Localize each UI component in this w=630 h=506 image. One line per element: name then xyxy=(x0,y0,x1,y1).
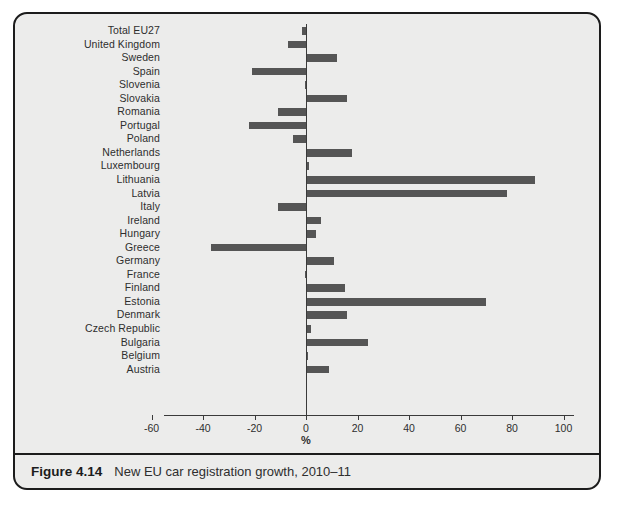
bar-chart-plot: Total EU27United KingdomSwedenSpainSlove… xyxy=(15,24,601,414)
bar xyxy=(249,122,306,130)
bar-row-label: Latvia xyxy=(131,187,160,201)
x-axis-title: % xyxy=(301,434,311,446)
bar-row: Latvia xyxy=(15,187,601,201)
x-axis-tick-label: 0 xyxy=(303,422,309,434)
bar-row: Total EU27 xyxy=(15,24,601,38)
bar xyxy=(211,244,306,252)
bar-row: Ireland xyxy=(15,214,601,228)
figure-card: Total EU27United KingdomSwedenSpainSlove… xyxy=(13,12,601,490)
bar-row-label: Italy xyxy=(140,200,160,214)
bar-row: Sweden xyxy=(15,51,601,65)
bar-row-label: United Kingdom xyxy=(84,38,160,52)
zero-axis-line xyxy=(306,24,307,416)
bar xyxy=(288,41,306,49)
x-axis-tick xyxy=(512,415,513,420)
bar-row: Portugal xyxy=(15,119,601,133)
x-axis-tick-label: -20 xyxy=(247,422,262,434)
bar-row: Netherlands xyxy=(15,146,601,160)
bar-row-label: Czech Republic xyxy=(85,322,160,336)
chart-area: Total EU27United KingdomSwedenSpainSlove… xyxy=(15,14,601,446)
bar-row: Lithuania xyxy=(15,173,601,187)
bar-row-label: Ireland xyxy=(127,214,160,228)
x-axis-tick-label: -60 xyxy=(144,422,159,434)
bar xyxy=(306,176,535,184)
bar-row-label: Lithuania xyxy=(116,173,160,187)
bar-row-label: Germany xyxy=(116,254,160,268)
bar-row: Belgium xyxy=(15,349,601,363)
x-axis-tick xyxy=(461,415,462,420)
bar-row-label: Portugal xyxy=(120,119,160,133)
x-axis-tick xyxy=(203,415,204,420)
bar-row-label: Sweden xyxy=(121,51,160,65)
bar-row-label: Slovakia xyxy=(120,92,161,106)
caption-figure-number: Figure 4.14 xyxy=(31,464,102,479)
bar-row: France xyxy=(15,268,601,282)
bar-row: Italy xyxy=(15,200,601,214)
bar-row: Luxembourg xyxy=(15,159,601,173)
bar-row-label: Luxembourg xyxy=(101,159,160,173)
bar-row-label: Belgium xyxy=(121,349,160,363)
bar xyxy=(306,257,334,265)
bar-row-label: Total EU27 xyxy=(108,24,160,38)
bar-row-label: Greece xyxy=(125,241,160,255)
bar-row-label: Romania xyxy=(117,105,160,119)
x-axis-tick xyxy=(564,415,565,420)
bar xyxy=(306,95,347,103)
bar-row-label: Poland xyxy=(127,132,160,146)
bar-row: Poland xyxy=(15,132,601,146)
bar-row: Estonia xyxy=(15,295,601,309)
bar-row-label: Finland xyxy=(125,281,160,295)
x-axis-tick xyxy=(255,415,256,420)
bar xyxy=(278,203,306,211)
bar-row-label: Austria xyxy=(127,363,160,377)
bar-row: Denmark xyxy=(15,308,601,322)
bar xyxy=(306,217,321,225)
bar xyxy=(252,68,306,76)
bar xyxy=(306,149,352,157)
bar xyxy=(306,230,316,238)
caption-title-text: New EU car registration growth, 2010–11 xyxy=(114,464,351,479)
bar-row: Bulgaria xyxy=(15,336,601,350)
bar xyxy=(306,190,507,198)
x-axis-tick xyxy=(306,415,307,420)
bar xyxy=(306,298,486,306)
bar-row: Slovenia xyxy=(15,78,601,92)
bar-row: Czech Republic xyxy=(15,322,601,336)
bar-row: Romania xyxy=(15,105,601,119)
bar xyxy=(306,311,347,319)
bar-row: Germany xyxy=(15,254,601,268)
x-axis-tick-label: 100 xyxy=(555,422,573,434)
bar-row-label: Estonia xyxy=(124,295,160,309)
bar xyxy=(306,54,337,62)
x-axis-tick-label: 80 xyxy=(506,422,518,434)
bar-row-label: Spain xyxy=(133,65,160,79)
bar-row-label: Hungary xyxy=(120,227,160,241)
bar-row: Finland xyxy=(15,281,601,295)
x-axis-tick-label: 20 xyxy=(352,422,364,434)
bar-row-label: Netherlands xyxy=(102,146,160,160)
bar-row: United Kingdom xyxy=(15,38,601,52)
figure-caption: Figure 4.14 New EU car registration grow… xyxy=(15,455,601,488)
x-axis-tick xyxy=(358,415,359,420)
x-axis-tick-label: 40 xyxy=(403,422,415,434)
bar-row: Greece xyxy=(15,241,601,255)
bar-row: Spain xyxy=(15,65,601,79)
x-axis-tick xyxy=(152,415,153,420)
bar xyxy=(278,108,306,116)
bar xyxy=(293,135,306,143)
bar-row: Austria xyxy=(15,363,601,377)
x-axis-tick xyxy=(409,415,410,420)
x-axis-tick-label: 60 xyxy=(455,422,467,434)
bar xyxy=(306,339,368,347)
bar-row-label: Slovenia xyxy=(119,78,160,92)
bar-row: Hungary xyxy=(15,227,601,241)
x-axis-tick-label: -40 xyxy=(195,422,210,434)
bar-row-label: France xyxy=(127,268,160,282)
bar-row: Slovakia xyxy=(15,92,601,106)
bar xyxy=(306,366,329,374)
bar xyxy=(306,284,345,292)
bar-row-label: Denmark xyxy=(117,308,160,322)
bar-row-label: Bulgaria xyxy=(121,336,160,350)
